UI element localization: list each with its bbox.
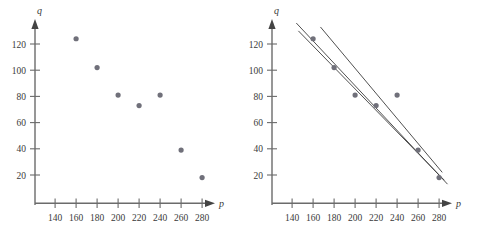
y-tick-label: 60 [17, 118, 27, 128]
data-point [416, 148, 421, 153]
x-axis-label: p [218, 198, 224, 209]
x-axis-tick-labels: 140 160 180 200 220 240 260 280 [285, 213, 447, 223]
y-tick-label: 80 [254, 92, 264, 102]
y-axis: 120 100 80 60 40 20 q [249, 5, 279, 205]
x-tick-label: 180 [327, 213, 342, 223]
figure-container: 120 100 80 60 40 20 q [0, 0, 484, 237]
fitted-lines-svg: 120 100 80 60 40 20 q [242, 0, 484, 237]
y-tick-label: 120 [249, 40, 264, 50]
y-tick-label: 40 [17, 144, 27, 154]
x-axis: 140 160 180 200 220 240 260 280 p [35, 198, 224, 223]
y-tick-label: 20 [254, 171, 264, 181]
y-axis-label: q [274, 5, 279, 16]
fitted-line [298, 31, 444, 180]
x-tick-label: 260 [174, 213, 189, 223]
y-tick-label: 40 [254, 144, 264, 154]
data-point [311, 36, 316, 41]
data-point-group [74, 36, 205, 180]
data-point [116, 92, 121, 97]
data-point [353, 92, 358, 97]
x-tick-label: 200 [348, 213, 363, 223]
data-point [179, 148, 184, 153]
y-axis-tick-labels: 120 100 80 60 40 20 [12, 40, 27, 181]
data-point [74, 36, 79, 41]
data-point [395, 92, 400, 97]
x-tick-label: 160 [306, 213, 321, 223]
y-tick-label: 20 [17, 171, 27, 181]
x-tick-label: 180 [90, 213, 105, 223]
x-tick-label: 220 [369, 213, 384, 223]
data-point [137, 103, 142, 108]
y-axis: 120 100 80 60 40 20 q [12, 5, 42, 205]
x-axis: 140 160 180 200 220 240 260 280 p [272, 198, 461, 223]
x-tick-label: 140 [285, 213, 300, 223]
scatter-plot-panel: 120 100 80 60 40 20 q [0, 0, 242, 237]
data-point [374, 103, 379, 108]
fitted-line [320, 27, 442, 172]
x-tick-label: 200 [111, 213, 126, 223]
scatter-plot-svg: 120 100 80 60 40 20 q [0, 0, 242, 237]
x-tick-label: 220 [132, 213, 147, 223]
x-tick-label: 240 [153, 213, 168, 223]
x-axis-tick-labels: 140 160 180 200 220 240 260 280 [48, 213, 210, 223]
data-point [95, 65, 100, 70]
data-point [200, 175, 205, 180]
x-tick-label: 260 [411, 213, 426, 223]
data-point [332, 65, 337, 70]
data-point [437, 175, 442, 180]
y-tick-label: 60 [254, 118, 264, 128]
fitted-lines-panel: 120 100 80 60 40 20 q [242, 0, 484, 237]
fitted-line-group [296, 23, 447, 184]
y-axis-tick-labels: 120 100 80 60 40 20 [249, 40, 264, 181]
data-point [158, 92, 163, 97]
x-tick-label: 240 [390, 213, 405, 223]
x-tick-label: 160 [69, 213, 84, 223]
x-axis-label: p [455, 198, 461, 209]
x-tick-label: 280 [195, 213, 210, 223]
y-tick-label: 100 [12, 66, 27, 76]
y-tick-label: 100 [249, 66, 264, 76]
y-axis-label: q [37, 5, 42, 16]
x-tick-label: 140 [48, 213, 63, 223]
y-tick-label: 80 [17, 92, 27, 102]
y-tick-label: 120 [12, 40, 27, 50]
x-tick-label: 280 [432, 213, 447, 223]
